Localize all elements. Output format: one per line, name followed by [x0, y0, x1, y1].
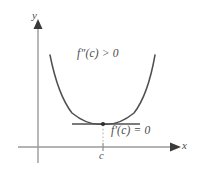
x-axis-label: x	[182, 140, 187, 151]
critical-point-label: c	[99, 151, 104, 162]
vertex-point-marker	[101, 122, 105, 126]
second-derivative-annotation: f″(c) > 0	[77, 48, 119, 60]
y-axis-label: y	[32, 10, 37, 21]
figure-container: y x f″(c) > 0 f′(c) = 0 c	[0, 0, 198, 176]
x-axis-arrow-icon	[170, 143, 181, 152]
first-derivative-annotation: f′(c) = 0	[111, 125, 151, 137]
parabola-curve	[50, 55, 155, 124]
